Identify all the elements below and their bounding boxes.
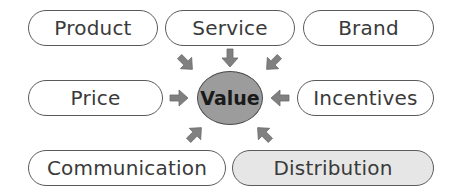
node-service: Service — [165, 10, 295, 46]
node-price: Price — [28, 80, 163, 116]
center-label: Value — [200, 87, 259, 109]
arrow-down-left-icon — [259, 49, 287, 77]
node-label: Service — [192, 16, 267, 40]
node-incentives: Incentives — [297, 80, 434, 116]
arrow-down-right-icon — [172, 49, 200, 77]
node-distribution: Distribution — [232, 150, 434, 186]
node-brand: Brand — [303, 10, 434, 46]
center-value: Value — [197, 71, 263, 125]
arrow-left-icon — [270, 88, 290, 108]
node-product: Product — [28, 10, 158, 46]
node-label: Distribution — [273, 156, 392, 180]
node-label: Communication — [47, 156, 207, 180]
node-label: Incentives — [313, 86, 418, 110]
node-label: Brand — [338, 16, 399, 40]
arrow-down-icon — [220, 48, 240, 68]
arrow-right-icon — [169, 88, 189, 108]
node-label: Product — [54, 16, 131, 40]
node-communication: Communication — [28, 150, 226, 186]
arrow-up-left-icon — [250, 120, 278, 148]
arrow-up-right-icon — [181, 120, 209, 148]
node-label: Price — [71, 86, 121, 110]
